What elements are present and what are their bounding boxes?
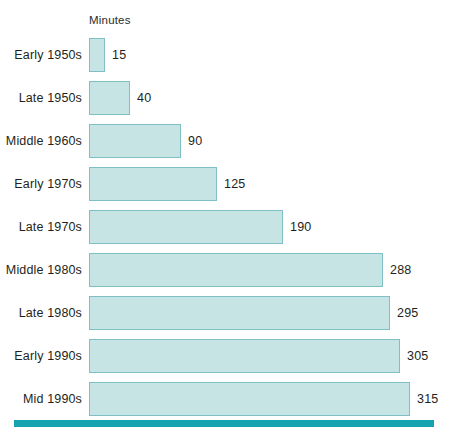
category-label: Early 1990s	[14, 339, 82, 373]
footer-caption-clip	[0, 431, 463, 440]
category-label: Mid 1990s	[23, 382, 82, 416]
bar-chart: Minutes Early 1950s 15 Late 1950s 40 Mid…	[0, 0, 463, 440]
category-label: Late 1970s	[19, 210, 82, 244]
chart-row: Early 1970s 125	[0, 167, 463, 210]
chart-row: Mid 1990s 315	[0, 382, 463, 425]
category-label: Late 1950s	[19, 81, 82, 115]
chart-row: Middle 1980s 288	[0, 253, 463, 296]
chart-row: Late 1950s 40	[0, 81, 463, 124]
chart-row: Early 1950s 15	[0, 38, 463, 81]
category-label: Late 1980s	[19, 296, 82, 330]
chart-rows: Early 1950s 15 Late 1950s 40 Middle 1960…	[0, 38, 463, 425]
bar	[89, 382, 410, 416]
chart-row: Early 1990s 305	[0, 339, 463, 382]
category-label: Early 1950s	[14, 38, 82, 72]
chart-row: Late 1970s 190	[0, 210, 463, 253]
bar	[89, 167, 217, 201]
bar	[89, 339, 400, 373]
chart-row: Late 1980s 295	[0, 296, 463, 339]
category-label: Early 1970s	[14, 167, 82, 201]
bar	[89, 124, 181, 158]
bar	[89, 253, 383, 287]
bar	[89, 210, 283, 244]
bar-value-label: 288	[390, 253, 411, 287]
bar-value-label: 295	[397, 296, 418, 330]
bar-value-label: 305	[407, 339, 428, 373]
axis-header-minutes: Minutes	[89, 14, 131, 26]
bar	[89, 296, 390, 330]
bar-value-label: 40	[137, 81, 151, 115]
category-label: Middle 1980s	[6, 253, 82, 287]
bar-value-label: 315	[417, 382, 438, 416]
bar-value-label: 190	[290, 210, 311, 244]
bar-value-label: 90	[188, 124, 202, 158]
bar-value-label: 125	[224, 167, 245, 201]
bar-value-label: 15	[112, 38, 126, 72]
chart-row: Middle 1960s 90	[0, 124, 463, 167]
category-label: Middle 1960s	[6, 124, 82, 158]
bottom-rule-divider	[14, 420, 434, 427]
bar	[89, 38, 105, 72]
bar	[89, 81, 130, 115]
